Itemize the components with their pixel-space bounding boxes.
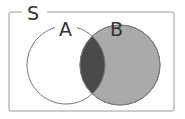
universe-label: S <box>27 2 39 24</box>
set-b-label: B <box>110 18 123 40</box>
venn-diagram: S A B <box>0 0 185 119</box>
set-a-label: A <box>59 18 72 40</box>
